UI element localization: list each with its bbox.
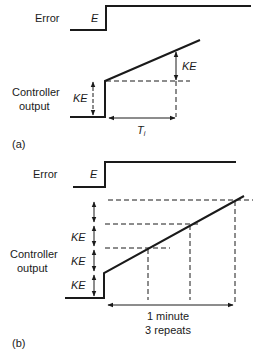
time-label-line1-b: 1 minute [147, 310, 189, 322]
error-step-signal-b [73, 162, 236, 187]
panel-a: Error E Controller output KE KE Ti (a) [12, 6, 251, 150]
integral-rise-label-a: KE [182, 60, 197, 72]
error-magnitude-label-b: E [90, 168, 98, 180]
ke-label-top: KE [71, 231, 86, 243]
controller-output-label-line2-b: output [17, 262, 48, 274]
ke-label-bottom: KE [71, 279, 86, 291]
panel-label-a: (a) [12, 138, 25, 150]
panel-b: Error E Controller output KE KE KE 1 min… [10, 162, 253, 349]
error-label-a: Error [35, 12, 60, 24]
pi-controller-diagram: Error E Controller output KE KE Ti (a) E… [0, 0, 263, 358]
integral-time-label-a: Ti [137, 124, 146, 137]
error-label-b: Error [33, 168, 58, 180]
error-magnitude-label-a: E [91, 12, 99, 24]
proportional-jump-label-a: KE [73, 92, 88, 104]
ke-label-middle: KE [71, 255, 86, 267]
controller-output-label-line2-a: output [19, 100, 50, 112]
controller-output-label-line1-a: Controller [12, 86, 60, 98]
controller-output-ramp-b [65, 196, 244, 298]
controller-output-label-line1-b: Controller [10, 248, 58, 260]
panel-label-b: (b) [12, 337, 25, 349]
time-label-line2-b: 3 repeats [145, 324, 191, 336]
controller-output-ramp-a [70, 40, 200, 117]
